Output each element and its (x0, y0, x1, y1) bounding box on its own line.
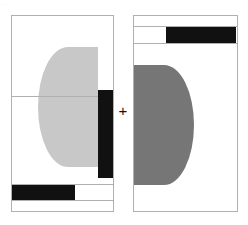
left-panel-lower-divider-bottom (12, 200, 113, 201)
left-panel (11, 15, 114, 212)
left-panel-horizontal-black-bar (12, 185, 75, 200)
light-gray-half-disc (38, 47, 98, 167)
figure-canvas: ·· + (0, 0, 248, 225)
right-panel (133, 15, 238, 212)
left-panel-vertical-black-bar (98, 90, 113, 178)
right-panel-top-black-bar (166, 27, 236, 43)
corner-artifact-text: ·· (1, 1, 15, 7)
right-panel-upper-divider-bottom (134, 43, 237, 44)
plus-operator-symbol: + (115, 100, 131, 120)
mid-gray-half-disc (134, 65, 194, 185)
